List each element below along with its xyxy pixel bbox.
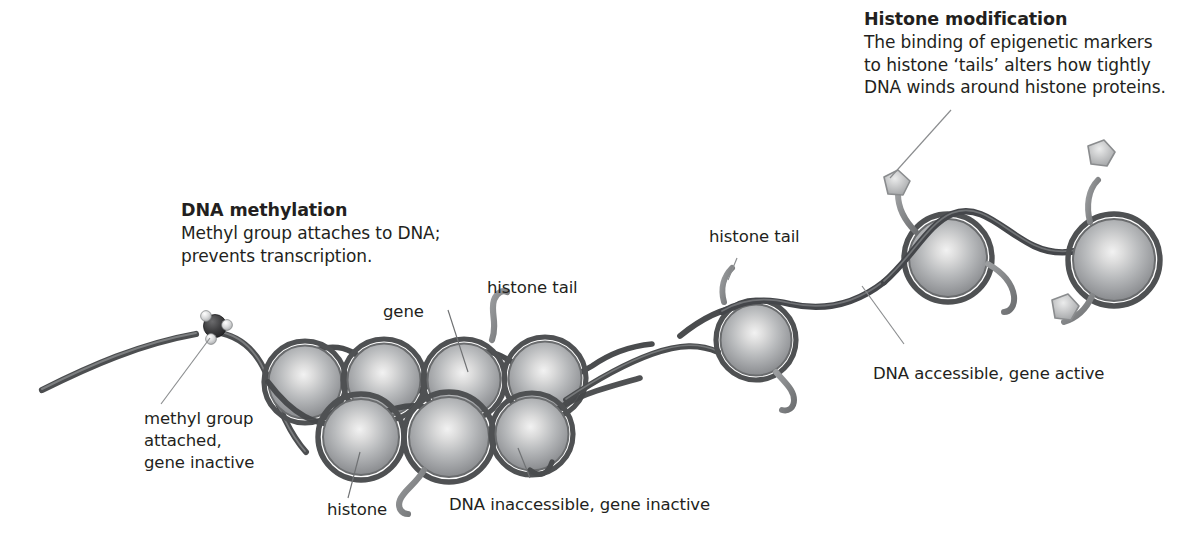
callout-dna-methylation-line1: Methyl group attaches to DNA; [181, 222, 440, 244]
leader-line-histone-modification [890, 110, 951, 178]
label-methyl-group-line2: attached, [144, 430, 254, 452]
figure-canvas: Histone modification The binding of epig… [0, 0, 1192, 547]
epigenetic-marker [1088, 140, 1115, 166]
label-dna-inaccessible: DNA inaccessible, gene inactive [449, 494, 710, 516]
histone-tail-middle-bottom [776, 372, 794, 411]
label-histone-tail-right: histone tail [709, 226, 800, 248]
label-histone: histone [327, 499, 387, 521]
label-dna-accessible: DNA accessible, gene active [873, 363, 1104, 385]
histone-tail-cluster-bottom [399, 470, 424, 514]
label-histone-tail-left: histone tail [487, 277, 578, 299]
callout-dna-methylation-line2: prevents transcription. [181, 245, 440, 267]
label-methyl-group-line3: gene inactive [144, 452, 254, 474]
histone-sphere [404, 392, 494, 482]
callout-histone-modification-line2: to histone ‘tails’ alters how tightly [864, 54, 1166, 76]
callout-histone-modification: Histone modification The binding of epig… [864, 8, 1166, 98]
callout-histone-modification-line3: DNA winds around histone proteins. [864, 76, 1166, 98]
label-methyl-group: methyl group attached, gene inactive [144, 408, 254, 473]
histone-sphere [904, 214, 992, 302]
histone-tail-right-a [898, 194, 916, 232]
histone-sphere [491, 393, 573, 475]
nucleosome-right-b [1064, 180, 1160, 322]
callout-dna-methylation-heading: DNA methylation [181, 199, 440, 222]
label-gene: gene [383, 301, 424, 323]
callout-histone-modification-line1: The binding of epigenetic markers [864, 31, 1166, 53]
histone-sphere [1068, 214, 1160, 306]
callout-histone-modification-heading: Histone modification [864, 8, 1166, 31]
nucleosome-middle [680, 268, 884, 411]
dna-strand-left [42, 333, 196, 390]
epigenetic-marker [884, 170, 910, 195]
callout-dna-methylation: DNA methylation Methyl group attaches to… [181, 199, 440, 267]
histone-sphere [318, 394, 404, 480]
methyl-group [201, 311, 233, 345]
leader-line-dna-accessible [862, 286, 904, 344]
leader-line-methyl-group [161, 338, 210, 404]
label-methyl-group-line1: methyl group [144, 408, 254, 430]
